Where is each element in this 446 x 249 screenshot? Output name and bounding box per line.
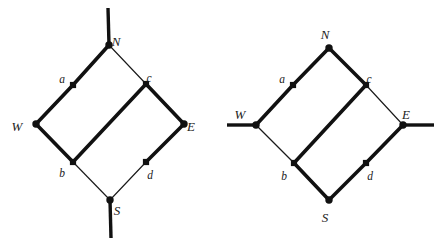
- edge-d-s: [110, 162, 146, 200]
- edge-c-e: [146, 84, 184, 124]
- node-label-s: S: [114, 203, 121, 218]
- node-b: [70, 159, 76, 165]
- node-e: [399, 121, 406, 128]
- node-w: [32, 120, 39, 127]
- node-label-n: N: [320, 27, 331, 42]
- edge-c-b: [294, 85, 366, 163]
- node-w: [252, 121, 259, 128]
- right-diamond-diagram: NaWbSdEc: [227, 27, 434, 225]
- edge-a-n: [293, 48, 329, 85]
- node-label-s: S: [322, 210, 329, 225]
- left-diamond-diagram: NaWbSdEc: [12, 8, 195, 238]
- node-label-b: b: [59, 167, 65, 179]
- edge-a-w: [36, 85, 73, 124]
- node-label-d: d: [147, 169, 153, 181]
- south-stem: [110, 200, 111, 238]
- edge-d-e: [366, 125, 403, 163]
- node-label-w: W: [235, 107, 247, 122]
- edge-n-c: [329, 48, 366, 85]
- node-label-a: a: [59, 73, 65, 85]
- edge-c-e: [366, 85, 403, 125]
- node-label-b: b: [281, 170, 287, 182]
- node-label-d: d: [367, 170, 373, 182]
- node-a: [290, 82, 296, 88]
- node-b: [291, 160, 297, 166]
- node-d: [143, 159, 149, 165]
- edge-w-a: [256, 85, 293, 125]
- node-n: [325, 44, 332, 51]
- node-d: [363, 160, 369, 166]
- node-label-w: W: [12, 119, 24, 134]
- node-label-a: a: [279, 73, 285, 85]
- figure-container: NaWbSdEcNaWbSdEc: [0, 0, 446, 249]
- edge-e-d: [146, 124, 184, 162]
- edge-w-b: [256, 125, 294, 163]
- node-label-n: N: [111, 34, 122, 49]
- edge-n-c: [109, 45, 146, 84]
- node-label-e: E: [186, 119, 195, 134]
- edge-b-s: [73, 162, 110, 200]
- node-label-c: c: [146, 72, 151, 84]
- diagram-canvas: NaWbSdEcNaWbSdEc: [0, 0, 446, 249]
- edge-b-s: [294, 163, 329, 200]
- edge-b-c: [73, 84, 146, 162]
- node-s: [325, 196, 332, 203]
- edge-w-b: [36, 124, 73, 162]
- node-a: [70, 82, 76, 88]
- node-s: [106, 196, 113, 203]
- edge-s-d: [329, 163, 366, 200]
- node-label-e: E: [401, 107, 410, 122]
- north-stem: [108, 8, 109, 45]
- node-label-c: c: [366, 73, 371, 85]
- edge-n-a: [73, 45, 109, 85]
